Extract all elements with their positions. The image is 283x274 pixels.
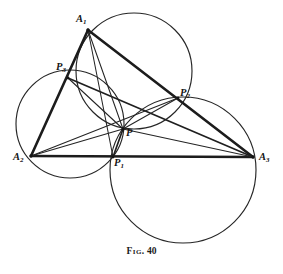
segment-A2-A3 — [31, 156, 253, 157]
point-label-A1: A1 — [76, 14, 87, 25]
segment-A3-P3 — [68, 78, 253, 157]
vertex-dots-group — [29, 28, 254, 158]
point-label-A2: A2 — [13, 152, 24, 163]
geometry-diagram — [0, 0, 283, 274]
circle-through-A1-P3-P2 — [76, 13, 192, 129]
dot-P2 — [177, 97, 180, 100]
segment-P3-P — [68, 78, 123, 129]
dot-P3 — [67, 77, 70, 80]
figure-container: A1 A2 A3 P1 P2 P3 P Fig. 40 — [0, 0, 283, 274]
segment-A2-P — [31, 129, 123, 156]
point-label-A3: A3 — [259, 152, 270, 163]
segment-A1-A3 — [88, 30, 253, 157]
point-label-P3: P3 — [56, 62, 66, 73]
figure-caption: Fig. 40 — [0, 246, 283, 256]
point-label-P: P — [126, 128, 132, 139]
triangle-sides-group — [31, 30, 253, 157]
caption-prefix: Fig. — [127, 246, 145, 256]
dot-A1 — [86, 28, 89, 31]
point-P-connections-group — [31, 30, 253, 157]
cevians-group — [31, 30, 253, 157]
dot-A3 — [251, 155, 254, 158]
dot-A2 — [29, 154, 32, 157]
circles-group — [16, 13, 256, 243]
dot-P — [121, 127, 124, 130]
point-label-P1: P1 — [114, 158, 124, 169]
circle-through-A3-P1-P2 — [110, 97, 256, 243]
point-label-P2: P2 — [180, 88, 190, 99]
segment-P2-P — [123, 98, 178, 129]
segment-P1-P — [113, 129, 123, 157]
caption-number: 40 — [145, 246, 157, 256]
